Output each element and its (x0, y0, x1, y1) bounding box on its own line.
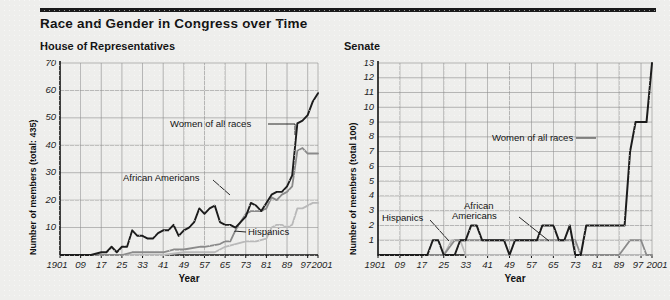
house-y-tick-label: 70 (18, 57, 56, 68)
senate-annotation-african-americans-line2: Americans (452, 211, 497, 221)
house-y-tick-label: 60 (18, 84, 56, 95)
house-series-african-americans (60, 148, 318, 255)
house-x-tick-label: 2001 (307, 259, 337, 270)
house-annotation-hispanics: Hispanics (248, 227, 289, 237)
senate-chart: 1234567891011121319010917253341495765738… (344, 55, 664, 300)
senate-x-axis-title: Year (378, 273, 652, 284)
senate-annotation-women: Women of all races (492, 133, 573, 143)
house-annotation-women: Women of all races (170, 119, 251, 129)
senate-y-tick-label: 12 (344, 71, 374, 82)
header-rule (40, 8, 656, 12)
house-leader-line (213, 180, 230, 195)
house-annotation-african-americans: African Americans (123, 173, 200, 183)
senate-x-tick-label: 2001 (642, 259, 670, 270)
house-panel-title: House of Representatives (40, 40, 175, 52)
senate-y-tick-label: 13 (344, 57, 374, 68)
senate-y-tick-label: 10 (344, 101, 374, 112)
house-leader-line (234, 231, 246, 232)
senate-annotation-hispanics: Hispanics (382, 213, 423, 223)
house-y-axis-title: Number of members (total: 435) (28, 119, 38, 255)
senate-panel-title: Senate (344, 40, 380, 52)
house-leader-line (268, 124, 295, 135)
page-title: Race and Gender in Congress over Time (40, 16, 308, 31)
house-chart: 1020304050607019010917253341495765738189… (18, 55, 328, 300)
house-x-axis-title: Year (60, 273, 318, 284)
senate-series-women-of-all-races (378, 63, 652, 255)
senate-leader-line (430, 220, 449, 241)
senate-leader-line (519, 217, 549, 241)
senate-y-axis-title: Number of members (total 100) (348, 122, 358, 255)
senate-y-tick-label: 11 (344, 86, 374, 97)
